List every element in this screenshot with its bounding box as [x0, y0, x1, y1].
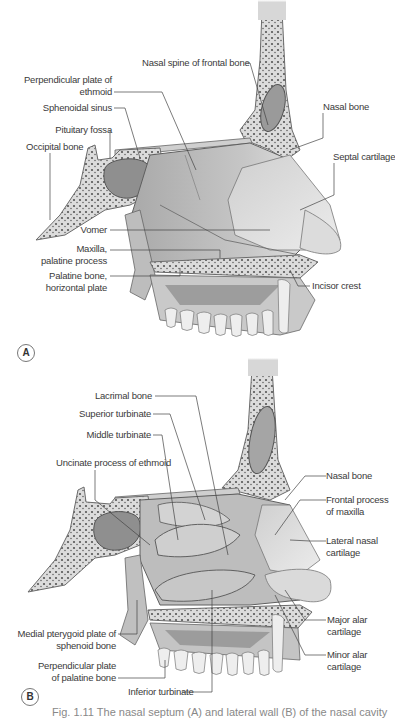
label-minor-alar-line2: cartilage	[327, 661, 361, 673]
label-lateral-nasal-line2: cartilage	[326, 547, 360, 559]
label-nasal-bone-a: Nasal bone	[323, 101, 369, 113]
label-major-alar-line1: Major alar	[327, 614, 367, 626]
label-pituitary-fossa: Pituitary fossa	[0, 124, 112, 136]
label-lateral-nasal-line1: Lateral nasal	[326, 535, 378, 547]
label-perpendicular-plate-line2: ethmoid	[0, 86, 112, 98]
label-medial-pterygoid-line2: sphenoid bone	[0, 640, 116, 652]
label-vomer: Vomer	[0, 224, 107, 236]
label-perp-palatine-line1: Perpendicular plate	[0, 660, 116, 672]
label-minor-alar-line1: Minor alar	[327, 649, 367, 661]
label-nasal-bone-b: Nasal bone	[326, 470, 372, 482]
label-major-alar-line2: cartilage	[327, 626, 361, 638]
panel-tag-a: A	[17, 344, 35, 362]
label-perpendicular-plate-line1: Perpendicular plate of	[0, 74, 112, 86]
label-frontal-process-line1: Frontal process	[326, 494, 388, 506]
label-palatine-bone-line2: horizontal plate	[0, 282, 107, 294]
label-nasal-spine-of-frontal-bone: Nasal spine of frontal bone	[142, 57, 250, 69]
label-lacrimal-bone: Lacrimal bone	[0, 390, 152, 402]
label-superior-turbinate: Superior turbinate	[0, 408, 151, 420]
panel-tag-b: B	[21, 688, 39, 706]
figure-caption: Fig. 1.11 The nasal septum (A) and later…	[52, 706, 387, 718]
label-palatine-bone-line1: Palatine bone,	[0, 270, 107, 282]
label-septal-cartilage: Septal cartilage	[333, 151, 395, 163]
label-medial-pterygoid-line1: Medial pterygoid plate of	[0, 628, 116, 640]
label-perp-palatine-line2: of palatine bone	[0, 672, 116, 684]
label-incisor-crest: Incisor crest	[312, 280, 361, 292]
label-sphenoidal-sinus: Sphenoidal sinus	[0, 102, 112, 114]
label-uncinate-process: Uncinate process of ethmoid	[56, 457, 171, 469]
label-maxilla-line2: palatine process	[0, 255, 107, 267]
label-inferior-turbinate: Inferior turbinate	[128, 686, 194, 698]
label-maxilla-line1: Maxilla,	[0, 243, 107, 255]
label-middle-turbinate: Middle turbinate	[0, 429, 151, 441]
label-occipital-bone: Occipital bone	[26, 141, 83, 153]
label-frontal-process-line2: of maxilla	[326, 506, 364, 518]
